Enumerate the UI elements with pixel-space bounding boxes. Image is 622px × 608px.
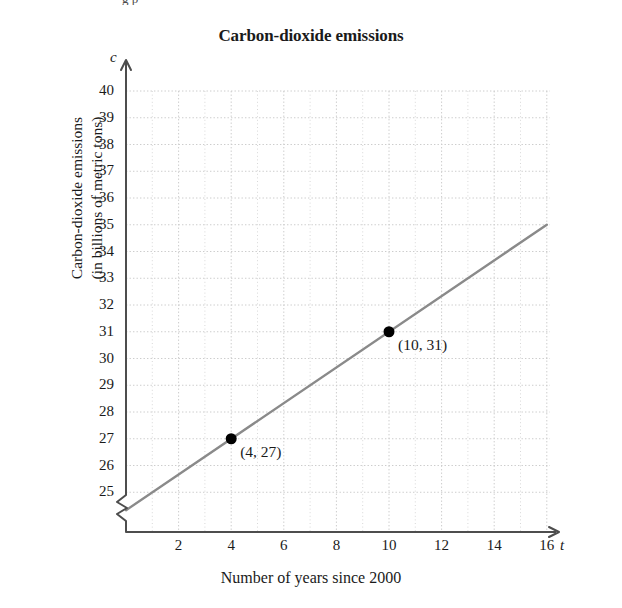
- y-tick-label: 28: [84, 404, 114, 419]
- x-tick-label: 12: [427, 538, 457, 553]
- y-tick-label: 33: [84, 270, 114, 285]
- y-tick-label: 40: [84, 83, 114, 98]
- y-tick-label: 38: [84, 137, 114, 152]
- y-tick-label: 26: [84, 458, 114, 473]
- x-tick-label: 14: [479, 538, 509, 553]
- y-tick-label: 29: [84, 377, 114, 392]
- y-tick-label: 36: [84, 190, 114, 205]
- y-tick-label: 39: [84, 110, 114, 125]
- x-tick-label: 4: [216, 538, 246, 553]
- series-line: [126, 225, 547, 510]
- x-tick-label: 6: [269, 538, 299, 553]
- data-point-label: (4, 27): [240, 443, 281, 461]
- x-tick-label: 8: [321, 538, 351, 553]
- y-tick-label: 32: [84, 297, 114, 312]
- y-tick-label: 37: [84, 163, 114, 178]
- y-tick-label: 35: [84, 217, 114, 232]
- x-tick-label: 16: [532, 538, 562, 553]
- x-tick-label: 2: [164, 538, 194, 553]
- x-tick-label: 10: [374, 538, 404, 553]
- y-tick-label: 34: [84, 244, 114, 259]
- y-tick-label: 30: [84, 351, 114, 366]
- y-tick-label: 31: [84, 324, 114, 339]
- chart-page: g p Carbon-dioxide emissions c t Carbon-…: [0, 0, 622, 608]
- data-point-label: (10, 31): [398, 336, 447, 354]
- y-tick-label: 25: [84, 484, 114, 499]
- y-tick-label: 27: [84, 431, 114, 446]
